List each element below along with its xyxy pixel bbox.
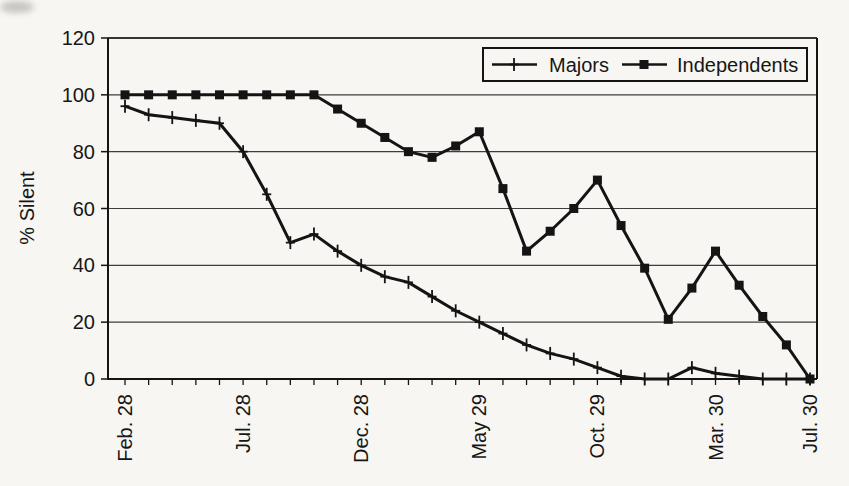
square-marker-icon — [215, 90, 224, 99]
square-marker-icon — [522, 247, 531, 256]
plus-marker-icon — [735, 370, 744, 383]
y-axis-title: % Silent — [16, 171, 38, 245]
square-marker-icon — [380, 133, 389, 142]
square-marker-icon — [286, 90, 295, 99]
square-marker-icon — [309, 90, 318, 99]
square-marker-icon — [711, 247, 720, 256]
plus-marker-icon — [309, 228, 318, 241]
scanned-page: 020406080100120Feb. 28Jul. 28Dec. 28May … — [0, 0, 849, 486]
plus-marker-icon — [522, 338, 531, 351]
plus-marker-icon — [380, 270, 389, 283]
x-tick-label: Jul. 28 — [232, 394, 254, 453]
square-marker-icon — [451, 141, 460, 150]
square-marker-icon — [428, 153, 437, 162]
plus-marker-icon — [404, 276, 413, 289]
plus-marker-icon — [782, 373, 791, 386]
legend-label-majors: Majors — [549, 54, 609, 76]
legend-label-independents: Independents — [677, 54, 798, 76]
y-tick-labels: 020406080100120 — [62, 27, 108, 390]
square-marker-icon — [640, 264, 649, 273]
square-marker-icon — [404, 147, 413, 156]
legend: MajorsIndependents — [483, 48, 807, 81]
x-tick-labels: Feb. 28Jul. 28Dec. 28May 29Oct. 29Mar. 3… — [114, 394, 821, 463]
x-tick-label: Dec. 28 — [350, 394, 372, 463]
series-independents-line — [125, 95, 810, 379]
x-tick-label: Feb. 28 — [114, 394, 136, 462]
square-marker-icon — [782, 340, 791, 349]
square-marker-icon — [357, 119, 366, 128]
square-marker-icon — [640, 60, 649, 69]
plus-marker-icon — [498, 327, 507, 340]
plus-marker-icon — [428, 290, 437, 303]
plus-marker-icon — [569, 353, 578, 366]
square-marker-icon — [617, 221, 626, 230]
plus-marker-icon — [191, 114, 200, 127]
y-tick-label-60: 60 — [73, 198, 95, 220]
series-independents-markers — [121, 90, 815, 383]
plus-marker-icon — [121, 100, 130, 113]
x-tick-label: Oct. 29 — [586, 394, 608, 458]
series-majors — [121, 100, 815, 386]
y-tick-label-40: 40 — [73, 254, 95, 276]
square-marker-icon — [144, 90, 153, 99]
y-tick-label-120: 120 — [62, 27, 95, 49]
series-majors-line — [125, 106, 810, 379]
square-marker-icon — [735, 281, 744, 290]
square-marker-icon — [806, 375, 815, 384]
square-marker-icon — [593, 176, 602, 185]
square-marker-icon — [168, 90, 177, 99]
square-marker-icon — [687, 284, 696, 293]
square-marker-icon — [333, 105, 342, 114]
plus-marker-icon — [664, 373, 673, 386]
x-tick-label: Mar. 30 — [705, 394, 727, 461]
square-marker-icon — [239, 90, 248, 99]
square-marker-icon — [664, 315, 673, 324]
plus-marker-icon — [451, 304, 460, 317]
plus-marker-icon — [687, 361, 696, 374]
y-tick-label-0: 0 — [84, 368, 95, 390]
square-marker-icon — [498, 184, 507, 193]
plus-marker-icon — [144, 108, 153, 121]
plus-marker-icon — [758, 373, 767, 386]
square-marker-icon — [475, 127, 484, 136]
plus-marker-icon — [333, 245, 342, 258]
plus-marker-icon — [711, 367, 720, 380]
plus-marker-icon — [168, 111, 177, 124]
series-independents — [121, 90, 815, 383]
square-marker-icon — [758, 312, 767, 321]
plus-marker-icon — [593, 361, 602, 374]
square-marker-icon — [262, 90, 271, 99]
square-marker-icon — [121, 90, 130, 99]
x-tick-label: Jul. 30 — [799, 394, 821, 453]
series-majors-markers — [121, 100, 815, 386]
y-tick-label-100: 100 — [62, 84, 95, 106]
plus-marker-icon — [475, 316, 484, 329]
plus-marker-icon — [617, 370, 626, 383]
silent-percentage-line-chart: 020406080100120Feb. 28Jul. 28Dec. 28May … — [0, 0, 849, 486]
y-tick-label-20: 20 — [73, 311, 95, 333]
scan-smudge-artifact — [0, 1, 34, 13]
square-marker-icon — [569, 204, 578, 213]
square-marker-icon — [191, 90, 200, 99]
plus-marker-icon — [357, 259, 366, 272]
x-tick-label: May 29 — [468, 394, 490, 460]
square-marker-icon — [546, 227, 555, 236]
plus-marker-icon — [546, 347, 555, 360]
plus-marker-icon — [640, 373, 649, 386]
y-tick-label-80: 80 — [73, 141, 95, 163]
